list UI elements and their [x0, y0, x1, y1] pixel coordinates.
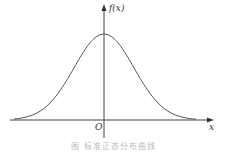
- bell-curve: [14, 34, 196, 119]
- y-axis-arrow-icon: [102, 4, 107, 11]
- figure-caption: 图 标准正态分布曲线: [0, 140, 227, 151]
- x-axis-label: x: [209, 122, 214, 132]
- y-axis-label: f(x): [109, 3, 124, 13]
- normal-distribution-chart: [0, 0, 227, 152]
- origin-label: O: [95, 122, 102, 132]
